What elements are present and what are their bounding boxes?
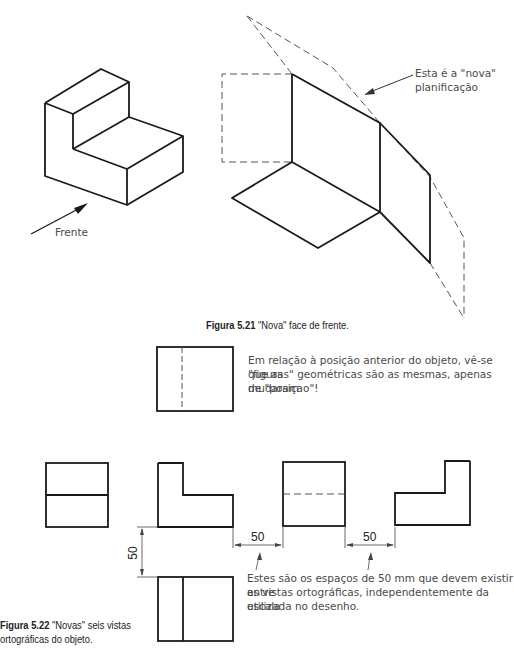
note-bottom-line3: utilizada no desenho. <box>247 599 359 613</box>
left-side-view <box>46 463 108 527</box>
bottom-view <box>158 577 233 641</box>
note-top-line3: de "posiçao"! <box>248 381 318 395</box>
planification-dashed <box>222 16 464 318</box>
figure-5-21-caption: Figura 5.21 "Nova" face de frente. <box>206 318 349 332</box>
figure-5-22-caption: Figura 5.22 "Novas" seis vistas <box>0 618 131 632</box>
figure-5-22-number: Figura 5.22 <box>0 619 49 631</box>
dimension-50-b: 50 <box>363 530 376 544</box>
dimension-50-vertical: 50 <box>126 546 140 559</box>
isometric-object <box>45 69 183 205</box>
planification-annotation-line2: planificação <box>415 80 478 94</box>
rear-view <box>395 461 470 525</box>
planification-solid <box>232 74 430 263</box>
annotation-arrow <box>364 75 413 95</box>
figure-5-22-text-line1: "Novas" seis vistas <box>49 619 130 631</box>
right-side-view <box>283 462 345 526</box>
figure-5-21-number: Figura 5.21 <box>206 319 255 331</box>
dimension-lines <box>137 527 395 577</box>
front-view <box>158 463 233 527</box>
figure-5-22-caption-line2: ortográficas do objeto. <box>0 632 93 646</box>
planification-annotation-line1: Esta é a "nova" <box>415 66 496 80</box>
top-view <box>157 347 233 411</box>
dimension-50-a: 50 <box>251 530 264 544</box>
figure-5-21-text: "Nova" face de frente. <box>255 319 348 331</box>
frente-label: Frente <box>55 225 88 239</box>
